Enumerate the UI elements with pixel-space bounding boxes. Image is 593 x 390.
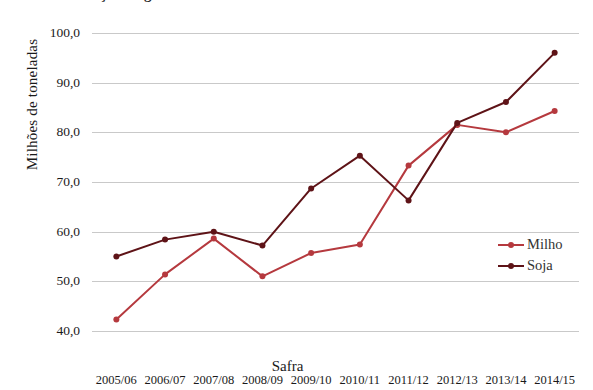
- legend-swatch-icon: [498, 260, 524, 272]
- clipped-chart-title-text: Produção de grãos no Brasil: [60, 0, 241, 3]
- legend-item[interactable]: Soja: [498, 255, 588, 276]
- data-point-marker: [308, 185, 314, 191]
- legend-item[interactable]: Milho: [498, 234, 588, 255]
- x-tick-label: 2014/15: [523, 373, 587, 388]
- data-point-marker: [357, 242, 363, 248]
- series-line: [116, 53, 554, 257]
- y-tick-label: 90,0: [18, 76, 80, 90]
- series-plot: [92, 33, 579, 331]
- plot-area: 100,090,080,070,060,050,040,0 2005/06200…: [92, 33, 579, 331]
- data-point-marker: [211, 229, 217, 235]
- data-point-marker: [211, 236, 217, 242]
- y-tick-label: 60,0: [18, 225, 80, 239]
- series-line: [116, 111, 554, 320]
- gridline: [92, 331, 579, 332]
- data-point-marker: [308, 250, 314, 256]
- data-point-marker: [406, 163, 412, 169]
- y-tick-label: 50,0: [18, 274, 80, 288]
- data-point-marker: [454, 120, 460, 126]
- line-chart-figure: Produção de grãos no Brasil Milhões de t…: [0, 0, 593, 390]
- data-point-marker: [259, 273, 265, 279]
- legend: MilhoSoja: [498, 234, 588, 276]
- data-point-marker: [113, 254, 119, 260]
- y-tick-label: 80,0: [18, 125, 80, 139]
- data-point-marker: [552, 108, 558, 114]
- data-point-marker: [406, 197, 412, 203]
- data-point-marker: [113, 317, 119, 323]
- data-point-marker: [162, 237, 168, 243]
- y-tick-label: 40,0: [18, 324, 80, 338]
- clipped-chart-title: Produção de grãos no Brasil: [0, 0, 593, 12]
- data-point-marker: [259, 243, 265, 249]
- legend-label: Milho: [527, 237, 562, 252]
- data-point-marker: [162, 271, 168, 277]
- data-point-marker: [357, 153, 363, 159]
- legend-label: Soja: [527, 258, 553, 273]
- y-tick-label: 100,0: [18, 26, 80, 40]
- legend-swatch-icon: [498, 239, 524, 251]
- y-tick-label: 70,0: [18, 175, 80, 189]
- data-point-marker: [503, 99, 509, 105]
- data-point-marker: [552, 50, 558, 56]
- data-point-marker: [503, 129, 509, 135]
